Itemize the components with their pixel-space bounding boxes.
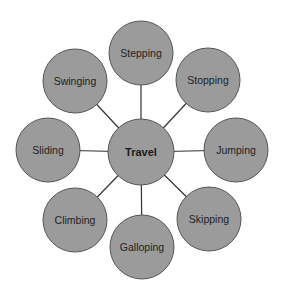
- node-swinging: Swinging: [43, 49, 107, 113]
- nodes: SteppingStoppingJumpingSkippingGalloping…: [16, 21, 268, 279]
- node-label: Stepping: [120, 47, 162, 59]
- node-label: Jumping: [216, 144, 256, 156]
- node-sliding: Sliding: [16, 118, 80, 182]
- center-node-label: Travel: [125, 146, 157, 158]
- travel-spider-diagram: SteppingStoppingJumpingSkippingGalloping…: [0, 0, 283, 295]
- center-node: Travel: [108, 119, 174, 185]
- node-label: Sliding: [32, 144, 64, 156]
- node-label: Climbing: [55, 214, 96, 226]
- node-label: Skipping: [189, 213, 229, 225]
- node-stepping: Stepping: [109, 21, 173, 85]
- node-galloping: Galloping: [110, 215, 174, 279]
- node-stopping: Stopping: [176, 48, 240, 112]
- node-label: Galloping: [120, 241, 165, 253]
- node-climbing: Climbing: [43, 188, 107, 252]
- node-label: Stopping: [187, 74, 229, 86]
- node-label: Swinging: [54, 75, 97, 87]
- node-skipping: Skipping: [177, 187, 241, 251]
- node-jumping: Jumping: [204, 118, 268, 182]
